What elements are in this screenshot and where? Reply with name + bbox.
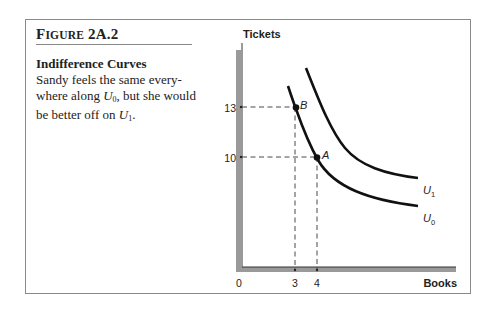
- indifference-chart: B A U1 U0 Tickets Books 13 10 0 3 4: [0, 0, 495, 314]
- u1-label: U1: [423, 184, 435, 199]
- x-axis-shadow: [236, 267, 456, 272]
- point-b: [293, 104, 300, 111]
- x-axis-title: Books: [423, 277, 457, 289]
- x-tick-3: 3: [292, 277, 298, 289]
- y-tick-13: 13: [224, 102, 236, 114]
- origin-label: 0: [236, 277, 242, 289]
- y-tick-10: 10: [224, 152, 236, 164]
- y-axis-title: Tickets: [243, 28, 281, 40]
- u0-label: U0: [423, 212, 435, 227]
- point-b-label: B: [300, 99, 307, 111]
- point-a: [314, 154, 321, 161]
- x-tick-4: 4: [314, 277, 320, 289]
- curve-u0: [288, 86, 418, 206]
- point-a-label: A: [321, 149, 329, 161]
- curve-u1: [306, 68, 418, 178]
- y-axis-shadow: [236, 50, 241, 272]
